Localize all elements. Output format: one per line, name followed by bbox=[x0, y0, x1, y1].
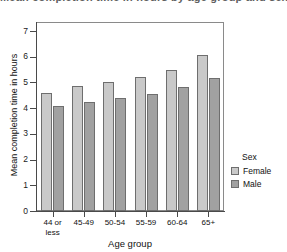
y-axis-tick bbox=[30, 185, 36, 186]
bar-female-4 bbox=[166, 70, 177, 211]
x-axis-tick bbox=[208, 212, 209, 217]
legend-swatch-icon bbox=[231, 180, 239, 188]
y-axis-tick bbox=[30, 211, 36, 212]
legend: Sex FemaleMale bbox=[231, 152, 287, 192]
legend-item-female[interactable]: Female bbox=[231, 166, 287, 176]
x-axis-title: Age group bbox=[36, 238, 224, 249]
x-axis-tick-label: 65+ bbox=[185, 218, 231, 228]
y-axis-tick bbox=[30, 31, 36, 32]
bar-male-4 bbox=[178, 87, 189, 211]
bar-male-1 bbox=[84, 102, 95, 211]
bar-female-0 bbox=[41, 93, 52, 211]
y-axis-tick-label: 0 bbox=[8, 207, 28, 216]
legend-item-label: Female bbox=[243, 166, 271, 176]
legend-item-label: Male bbox=[243, 179, 261, 189]
bar-chart-figure: 01234567 Mean completion time in hours 4… bbox=[0, 0, 287, 252]
plot-area bbox=[37, 22, 224, 211]
x-axis-tick bbox=[146, 212, 147, 217]
y-axis-tick bbox=[30, 82, 36, 83]
x-axis-line bbox=[36, 211, 225, 212]
bar-male-3 bbox=[147, 94, 158, 212]
legend-title: Sex bbox=[242, 152, 287, 162]
x-axis-tick bbox=[53, 212, 54, 217]
x-axis-tick bbox=[177, 212, 178, 217]
y-axis-tick bbox=[30, 57, 36, 58]
bar-female-3 bbox=[135, 77, 146, 211]
bar-female-1 bbox=[72, 86, 83, 211]
y-axis-title: Mean completion time in hours bbox=[9, 35, 19, 195]
x-axis-tick bbox=[115, 212, 116, 217]
bar-female-5 bbox=[197, 55, 208, 211]
bar-male-5 bbox=[209, 78, 220, 211]
bar-female-2 bbox=[103, 82, 114, 211]
legend-item-male[interactable]: Male bbox=[231, 179, 287, 189]
y-axis-tick bbox=[30, 108, 36, 109]
x-axis-tick bbox=[84, 212, 85, 217]
bar-male-2 bbox=[115, 98, 126, 211]
bar-male-0 bbox=[53, 106, 64, 211]
legend-swatch-icon bbox=[231, 167, 239, 175]
y-axis-tick bbox=[30, 134, 36, 135]
y-axis-tick bbox=[30, 160, 36, 161]
legend-items: FemaleMale bbox=[231, 166, 287, 189]
